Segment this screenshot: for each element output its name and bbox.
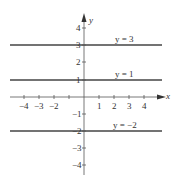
x-axis-label: x: [166, 92, 170, 101]
y-tick-label: −3: [72, 144, 82, 153]
x-tick-label: 3: [127, 102, 132, 111]
x-tick-label: −3: [34, 102, 44, 111]
y-tick-label: −1: [72, 110, 82, 119]
y-axis-label: y: [89, 16, 93, 25]
y-tick-label: −4: [72, 161, 82, 170]
x-tick-label: −4: [19, 102, 29, 111]
x-axis-arrow-icon: [157, 95, 166, 100]
graph-figure: y x y = 3 y = 1 y = −2 −4 −3 −2 1 2 3 4 …: [0, 0, 179, 179]
y-axis-arrow-icon: [82, 13, 87, 22]
y-tick-label: 1: [76, 76, 81, 85]
y-tick-label: −2: [72, 127, 82, 136]
x-tick-label: 2: [112, 102, 117, 111]
x-tick-label: 4: [142, 102, 147, 111]
x-tick-label: −2: [49, 102, 59, 111]
annotation-y1: y = 1: [115, 70, 134, 79]
plot-area: [0, 0, 179, 179]
x-tick-label: 1: [97, 102, 102, 111]
annotation-y3: y = 3: [115, 35, 134, 44]
y-tick-label: 4: [76, 24, 81, 33]
y-tick-label: 3: [76, 41, 81, 50]
y-tick-label: 2: [76, 58, 81, 67]
annotation-y-neg2: y = −2: [113, 121, 137, 130]
